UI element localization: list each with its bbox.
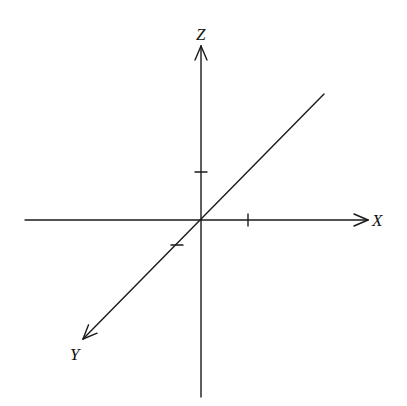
axis-x-arrowhead-icon (354, 214, 368, 220)
axis-z-arrowhead-icon (195, 46, 201, 60)
axis-x-arrowhead-icon (354, 220, 368, 226)
axis-label-x: X (371, 211, 383, 230)
axis-label-y: Y (70, 345, 81, 364)
axis-z-arrowhead-icon (201, 46, 207, 60)
axis-label-z: Z (196, 25, 206, 44)
axis-y-line (83, 94, 324, 339)
labels-layer: X Z Y (70, 25, 383, 364)
axes-diagram: X Z Y (0, 0, 407, 406)
